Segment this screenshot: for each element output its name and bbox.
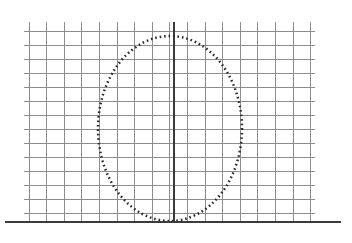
- figure-container: [0, 0, 352, 243]
- figure-canvas: [0, 0, 352, 243]
- figure-background: [0, 0, 352, 243]
